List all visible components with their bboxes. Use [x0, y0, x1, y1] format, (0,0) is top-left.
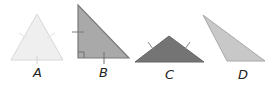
tick-mark-c-left	[148, 42, 153, 49]
triangle-d-shape	[203, 15, 265, 61]
triangle-a	[11, 14, 63, 64]
label-c: C	[165, 68, 174, 81]
triangle-b	[72, 5, 129, 64]
triangle-d	[203, 15, 265, 61]
triangle-a-shape	[11, 14, 63, 60]
triangle-c	[135, 36, 204, 62]
triangle-c-shape	[135, 36, 204, 62]
tick-mark-c-right	[185, 42, 190, 49]
label-a: A	[33, 66, 42, 79]
label-b: B	[99, 66, 108, 79]
label-d: D	[238, 68, 248, 81]
triangle-b-shape	[78, 5, 129, 58]
